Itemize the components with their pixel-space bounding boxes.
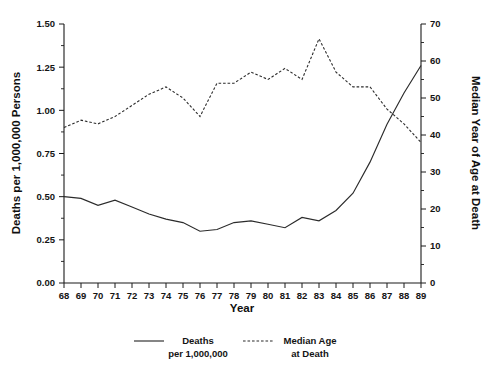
right-tick-label: 10 xyxy=(430,240,441,251)
x-tick-label: 87 xyxy=(382,290,393,301)
x-tick-label: 78 xyxy=(229,290,240,301)
x-axis-tick-labels: 6869707172737475767778798081828384858687… xyxy=(59,290,427,301)
x-tick-label: 82 xyxy=(297,290,308,301)
right-tick-label: 30 xyxy=(430,166,441,177)
x-tick-label: 86 xyxy=(365,290,376,301)
x-tick-label: 89 xyxy=(416,290,427,301)
plot-series xyxy=(64,39,421,231)
right-axis-ticks xyxy=(421,24,426,283)
right-tick-label: 60 xyxy=(430,55,441,66)
legend-label-median-age-line1: Median Age xyxy=(284,335,337,346)
right-axis: 010203040506070 Median Year of Age at De… xyxy=(421,18,482,288)
left-tick-label: 0.00 xyxy=(37,277,56,288)
x-axis-ticks xyxy=(64,283,421,288)
right-tick-label: 40 xyxy=(430,129,441,140)
right-axis-title: Median Year of Age at Death xyxy=(470,76,482,230)
x-tick-label: 81 xyxy=(280,290,291,301)
right-tick-label: 70 xyxy=(430,18,441,29)
chart-svg: 0.000.250.500.751.001.251.50 Deaths per … xyxy=(0,0,485,371)
x-tick-label: 88 xyxy=(399,290,410,301)
x-tick-label: 76 xyxy=(195,290,206,301)
chart-legend: Deaths per 1,000,000 Median Age at Death xyxy=(134,335,336,359)
x-axis-title: Year xyxy=(230,302,255,314)
x-tick-label: 71 xyxy=(110,290,121,301)
left-axis-ticks xyxy=(59,24,64,283)
left-tick-label: 0.50 xyxy=(37,191,56,202)
left-tick-label: 1.50 xyxy=(37,18,56,29)
right-tick-label: 20 xyxy=(430,203,441,214)
x-tick-label: 68 xyxy=(59,290,70,301)
left-axis-tick-labels: 0.000.250.500.751.001.251.50 xyxy=(37,18,56,288)
x-tick-label: 79 xyxy=(246,290,257,301)
x-tick-label: 69 xyxy=(76,290,87,301)
x-tick-label: 74 xyxy=(161,290,172,301)
series-median-age-line xyxy=(64,39,421,143)
left-axis: 0.000.250.500.751.001.251.50 Deaths per … xyxy=(10,18,64,288)
x-tick-label: 75 xyxy=(178,290,189,301)
chart-figure: 0.000.250.500.751.001.251.50 Deaths per … xyxy=(0,0,485,371)
left-tick-label: 1.25 xyxy=(37,62,56,73)
x-tick-label: 83 xyxy=(314,290,325,301)
x-tick-label: 70 xyxy=(93,290,104,301)
right-tick-label: 50 xyxy=(430,92,441,103)
legend-label-median-age-line2: at Death xyxy=(291,348,329,359)
left-tick-label: 0.25 xyxy=(37,234,56,245)
x-tick-label: 80 xyxy=(263,290,274,301)
left-tick-label: 1.00 xyxy=(37,105,56,116)
series-deaths-line xyxy=(64,65,421,231)
left-axis-title: Deaths per 1,000,000 Persons xyxy=(10,72,22,234)
left-tick-label: 0.75 xyxy=(37,148,56,159)
right-tick-label: 0 xyxy=(430,277,435,288)
x-tick-label: 85 xyxy=(348,290,359,301)
x-tick-label: 77 xyxy=(212,290,223,301)
legend-label-deaths-line2: per 1,000,000 xyxy=(168,348,228,359)
legend-label-deaths-line1: Deaths xyxy=(182,335,214,346)
right-axis-tick-labels: 010203040506070 xyxy=(430,18,441,288)
x-tick-label: 84 xyxy=(331,290,342,301)
x-tick-label: 73 xyxy=(144,290,155,301)
x-axis: 6869707172737475767778798081828384858687… xyxy=(59,283,427,314)
x-tick-label: 72 xyxy=(127,290,138,301)
